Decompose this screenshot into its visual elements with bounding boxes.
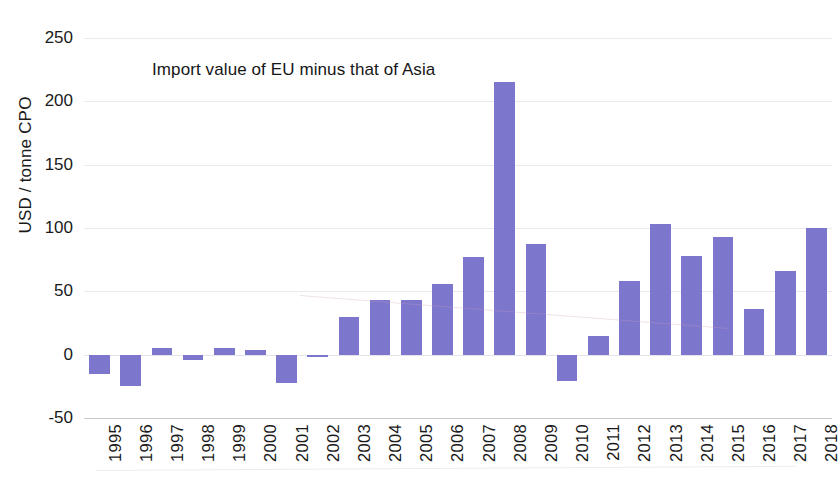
plot-area: 250200150100500-50 — [84, 38, 832, 418]
y-tick-label-150: 150 — [45, 155, 73, 175]
bar-2010 — [557, 355, 578, 382]
bar-2009 — [526, 244, 547, 354]
x-tick-label-2012: 2012 — [635, 424, 654, 462]
x-axis-line — [84, 418, 832, 419]
x-tick-label-2009: 2009 — [542, 424, 561, 462]
x-tick-label-1997: 1997 — [168, 424, 187, 462]
bar-2000 — [245, 350, 266, 355]
bar-2005 — [401, 300, 422, 354]
bar-2008 — [494, 82, 515, 354]
x-tick-label-2002: 2002 — [324, 424, 343, 462]
bar-1996 — [120, 355, 141, 387]
bar-2015 — [713, 237, 734, 355]
bar-2007 — [463, 257, 484, 355]
bar-chart: USD / tonne CPO 250200150100500-50 Impor… — [0, 0, 840, 490]
bar-2003 — [339, 317, 360, 355]
x-tick-label-2001: 2001 — [293, 424, 312, 462]
x-tick-label-2014: 2014 — [698, 424, 717, 462]
bar-2014 — [681, 256, 702, 355]
bar-1995 — [89, 355, 110, 374]
bar-2004 — [370, 300, 391, 354]
x-tick-label-2016: 2016 — [760, 424, 779, 462]
x-tick-label-2004: 2004 — [386, 424, 405, 462]
bar-2011 — [588, 336, 609, 355]
x-tick-label-2007: 2007 — [480, 424, 499, 462]
x-tick-label-1995: 1995 — [106, 424, 125, 462]
bar-1999 — [214, 348, 235, 354]
x-tick-label-2018: 2018 — [822, 424, 840, 462]
y-axis-title: USD / tonne CPO — [16, 75, 36, 255]
bar-1997 — [152, 348, 173, 354]
x-tick-label-2010: 2010 — [573, 424, 592, 462]
bar-2001 — [276, 355, 297, 383]
bar-2016 — [744, 309, 765, 355]
bar-2012 — [619, 281, 640, 354]
chart-title: Import value of EU minus that of Asia — [152, 60, 435, 80]
bar-2018 — [806, 228, 827, 355]
y-tick-label-100: 100 — [45, 218, 73, 238]
x-tick-label-2011: 2011 — [604, 424, 623, 461]
bar-2002 — [307, 355, 328, 358]
bar-2006 — [432, 284, 453, 355]
bars-layer — [84, 38, 832, 418]
x-tick-label-1996: 1996 — [137, 424, 156, 462]
bar-1998 — [183, 355, 204, 360]
bar-2013 — [650, 224, 671, 354]
y-tick-label-250: 250 — [45, 28, 73, 48]
x-tick-label-1998: 1998 — [199, 424, 218, 462]
y-tick-label-0: 0 — [64, 345, 73, 365]
x-tick-label-2015: 2015 — [729, 424, 748, 462]
x-axis-tick-labels: 1995199619971998199920002001200220032004… — [84, 420, 832, 490]
x-tick-label-2006: 2006 — [448, 424, 467, 462]
y-tick-label-200: 200 — [45, 91, 73, 111]
y-tick-label-50: 50 — [54, 281, 73, 301]
x-tick-label-2003: 2003 — [355, 424, 374, 462]
bar-2017 — [775, 271, 796, 355]
y-tick-label--50: -50 — [48, 408, 73, 428]
x-tick-label-1999: 1999 — [230, 424, 249, 462]
x-tick-label-2005: 2005 — [417, 424, 436, 462]
x-tick-label-2008: 2008 — [511, 424, 530, 462]
x-tick-label-2000: 2000 — [261, 424, 280, 462]
x-tick-label-2017: 2017 — [791, 424, 810, 462]
x-tick-label-2013: 2013 — [667, 424, 686, 462]
